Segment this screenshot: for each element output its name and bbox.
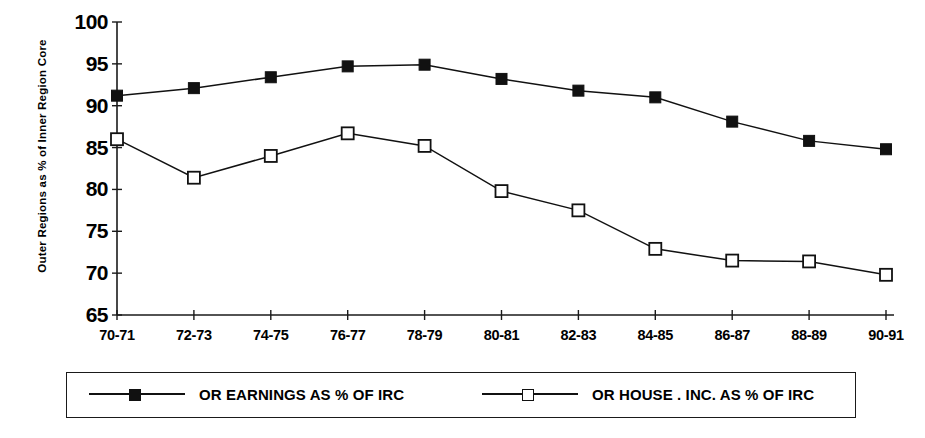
data-point-marker [419,140,431,152]
series-line [117,133,886,274]
data-point-marker [112,90,123,101]
legend-swatch-filled-square-icon [89,386,185,402]
data-point-marker [880,269,892,281]
data-point-marker [111,133,123,145]
data-point-marker [188,83,199,94]
data-point-marker [881,144,892,155]
data-point-marker [804,135,815,146]
legend-label: OR EARNINGS AS % OF IRC [199,386,404,403]
y-tick-label: 85 [62,137,108,158]
chart-figure: Outer Regions as % of Inner Region Core … [0,0,925,438]
data-point-marker [572,204,584,216]
y-axis-title: Outer Regions as % of Inner Region Core [36,6,48,306]
data-point-marker [650,92,661,103]
data-point-marker [265,150,277,162]
data-point-marker [496,73,507,84]
chart-legend: OR EARNINGS AS % OF IRC OR HOUSE . INC. … [66,372,856,418]
data-point-marker [419,59,430,70]
data-point-marker [342,127,354,139]
data-point-marker [649,243,661,255]
data-point-marker [342,61,353,72]
x-tick-label: 90-91 [841,328,925,343]
data-point-marker [803,255,815,267]
y-tick-label: 70 [62,262,108,283]
y-tick-label: 75 [62,220,108,241]
y-tick-label: 65 [62,304,108,325]
series-or-house-inc [111,127,892,280]
legend-item-or-house-inc: OR HOUSE . INC. AS % OF IRC [482,382,814,406]
y-tick-label: 80 [62,178,108,199]
data-point-marker [265,72,276,83]
y-tick-label: 95 [62,53,108,74]
data-point-marker [573,85,584,96]
legend-item-or-earnings: OR EARNINGS AS % OF IRC [89,382,404,406]
data-point-marker [188,172,200,184]
data-point-marker [727,116,738,127]
y-tick-label: 90 [62,95,108,116]
legend-swatch-open-square-icon [482,386,578,402]
data-point-marker [726,255,738,267]
y-tick-label: 100 [62,11,108,32]
series-or-earnings [112,59,892,155]
data-point-marker [496,185,508,197]
legend-label: OR HOUSE . INC. AS % OF IRC [592,386,814,403]
